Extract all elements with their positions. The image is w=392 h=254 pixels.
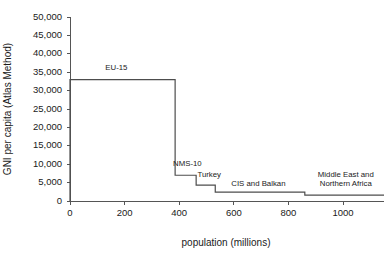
svg-text:800: 800 <box>281 207 297 218</box>
svg-text:200: 200 <box>117 207 133 218</box>
svg-text:0: 0 <box>57 195 62 206</box>
y-axis-tick-labels: 05,00010,00015,00020,00025,00030,00035,0… <box>33 11 62 206</box>
svg-text:0: 0 <box>67 207 72 218</box>
x-axis-title: population (millions) <box>182 237 271 248</box>
series-annotation-label: CIS and Balkan <box>231 179 285 188</box>
svg-text:400: 400 <box>171 207 187 218</box>
svg-text:10,000: 10,000 <box>33 158 62 169</box>
series-annotation-label: Middle East andNorthern Africa <box>318 170 374 189</box>
series-annotation-label: NMS-10 <box>173 159 202 168</box>
svg-text:1000: 1000 <box>332 207 353 218</box>
svg-text:35,000: 35,000 <box>33 66 62 77</box>
svg-text:5,000: 5,000 <box>38 176 62 187</box>
gni-population-step-chart: 05,00010,00015,00020,00025,00030,00035,0… <box>0 0 392 254</box>
svg-text:40,000: 40,000 <box>33 47 62 58</box>
svg-text:25,000: 25,000 <box>33 103 62 114</box>
svg-text:15,000: 15,000 <box>33 139 62 150</box>
svg-text:45,000: 45,000 <box>33 29 62 40</box>
chart-container: 05,00010,00015,00020,00025,00030,00035,0… <box>0 0 392 254</box>
svg-text:600: 600 <box>226 207 242 218</box>
series-annotation-label: EU-15 <box>105 63 128 72</box>
series-annotation-label: Turkey <box>197 170 221 179</box>
svg-text:20,000: 20,000 <box>33 121 62 132</box>
y-axis-title: GNI per capita (Atlas Method) <box>2 43 13 175</box>
svg-text:50,000: 50,000 <box>33 11 62 22</box>
svg-text:30,000: 30,000 <box>33 84 62 95</box>
